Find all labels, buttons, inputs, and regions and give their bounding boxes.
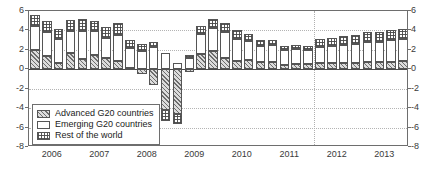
bar-segment	[220, 32, 230, 57]
x-tick-label: 2006	[30, 150, 74, 159]
bar-segment	[113, 23, 123, 36]
bar-segment	[375, 32, 385, 42]
bar-segment	[173, 63, 183, 69]
bar-segment	[220, 23, 230, 33]
bar-segment	[90, 21, 100, 32]
y-tick-mark	[25, 107, 28, 108]
bar-group	[196, 11, 206, 146]
bar-segment	[149, 42, 159, 47]
bar-segment	[90, 55, 100, 70]
bar-segment	[327, 38, 337, 46]
y-tick-mark	[408, 127, 411, 128]
legend-label-emerging-g20: Emerging G20 countries	[55, 120, 152, 129]
y-tick-mark	[25, 29, 28, 30]
bar-segment	[54, 39, 64, 63]
bar-segment	[315, 63, 325, 69]
bar-segment	[386, 62, 396, 70]
y-tick-label: -6	[2, 123, 24, 132]
bar-segment	[196, 26, 206, 35]
bar-segment	[351, 35, 361, 44]
bar-segment	[398, 29, 408, 39]
bar-group	[386, 11, 396, 146]
bar-segment	[339, 63, 349, 69]
bar-segment	[78, 19, 88, 32]
x-tick-label: 2013	[362, 150, 406, 159]
y-tick-label: 2	[411, 45, 433, 54]
y-tick-label: -4	[2, 103, 24, 112]
bar-group	[315, 11, 325, 146]
bar-segment	[113, 35, 123, 60]
bar-segment	[303, 64, 313, 69]
bar-segment	[137, 69, 147, 74]
x-tick-label: 2011	[267, 150, 311, 159]
bar-segment	[42, 32, 52, 55]
y-tick-label: -4	[411, 103, 433, 112]
bar-group	[220, 11, 230, 146]
bar-group	[375, 11, 385, 146]
bar-segment	[232, 39, 242, 60]
bar-segment	[42, 21, 52, 33]
bar-segment	[137, 44, 147, 51]
bar-segment	[78, 31, 88, 58]
bar-segment	[256, 40, 266, 46]
bar-segment	[185, 58, 195, 70]
bar-segment	[125, 40, 135, 48]
bar-segment	[125, 48, 135, 68]
bar-segment	[66, 20, 76, 32]
bar-segment	[363, 42, 373, 62]
bar-segment	[375, 42, 385, 62]
bar-segment	[173, 69, 183, 114]
bar-segment	[78, 59, 88, 70]
bar-segment	[363, 32, 373, 42]
bar-segment	[54, 29, 64, 39]
bar-segment	[375, 62, 385, 69]
bar-group	[280, 11, 290, 146]
bar-segment	[315, 47, 325, 64]
bar-segment	[386, 30, 396, 40]
bar-segment	[280, 46, 290, 50]
legend-item-advanced-g20: Advanced G20 countries	[37, 108, 154, 119]
bar-segment	[149, 69, 159, 85]
bar-group	[398, 11, 408, 146]
bar-segment	[196, 54, 206, 70]
bar-segment	[232, 30, 242, 39]
bar-segment	[303, 50, 313, 65]
bar-group	[363, 11, 373, 146]
y-tick-label: 6	[2, 6, 24, 15]
bar-segment	[268, 62, 278, 70]
legend-item-emerging-g20: Emerging G20 countries	[37, 119, 154, 130]
y-tick-mark	[408, 88, 411, 89]
bar-segment	[339, 45, 349, 63]
bar-group	[303, 11, 313, 146]
y-tick-mark	[25, 127, 28, 128]
bar-segment	[339, 36, 349, 45]
bar-segment	[351, 63, 361, 69]
bar-segment	[196, 34, 206, 53]
bar-segment	[256, 46, 266, 62]
y-tick-mark	[25, 68, 28, 69]
bar-segment	[280, 50, 290, 66]
bar-segment	[101, 27, 111, 39]
bar-segment	[113, 61, 123, 70]
chart-legend: Advanced G20 countries Emerging G20 coun…	[32, 104, 160, 145]
y-tick-mark	[408, 68, 411, 69]
bar-group	[291, 11, 301, 146]
bar-segment	[173, 114, 183, 124]
x-tick-label: 2008	[125, 150, 169, 159]
y-tick-label: -8	[2, 142, 24, 151]
y-tick-mark	[408, 107, 411, 108]
bar-segment	[363, 62, 373, 69]
legend-item-rest-of-world: Rest of the world	[37, 130, 154, 141]
legend-swatch-rest-of-world	[37, 132, 50, 140]
y-tick-label: -2	[2, 84, 24, 93]
bar-segment	[386, 40, 396, 61]
bar-segment	[220, 58, 230, 70]
legend-label-advanced-g20: Advanced G20 countries	[55, 109, 154, 118]
bar-segment	[42, 56, 52, 70]
bar-group	[173, 11, 183, 146]
bar-segment	[327, 63, 337, 69]
bar-segment	[244, 41, 254, 59]
bar-group	[256, 11, 266, 146]
bar-segment	[208, 19, 218, 29]
bar-segment	[291, 64, 301, 69]
